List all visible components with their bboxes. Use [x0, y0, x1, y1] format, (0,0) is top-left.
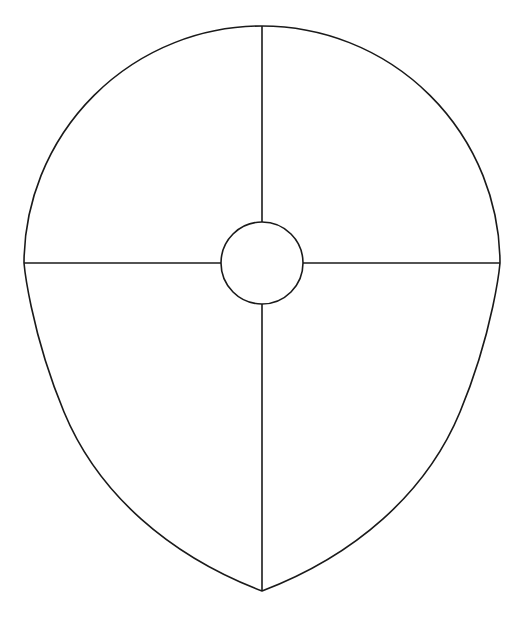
diagram-canvas: Shield outline with quartered divisions …: [0, 0, 523, 617]
shield-diagram: Shield outline with quartered divisions …: [0, 0, 523, 617]
